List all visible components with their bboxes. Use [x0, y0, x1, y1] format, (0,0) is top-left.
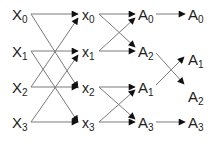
node-label: x	[82, 115, 89, 131]
node-label: A	[188, 6, 198, 23]
node-subscript: 0	[89, 14, 95, 25]
node-label: A	[188, 88, 198, 105]
node-X2: X2	[12, 80, 28, 98]
node-subscript: 1	[198, 59, 204, 70]
node-A1b: A1	[188, 52, 204, 70]
node-label: x	[82, 80, 89, 96]
edges-layer	[0, 0, 215, 145]
node-label: x	[82, 7, 89, 23]
node-x1: x1	[82, 45, 95, 62]
node-label: X	[12, 6, 22, 23]
node-subscript: 0	[22, 14, 28, 25]
node-label: X	[12, 79, 22, 96]
node-A3b: A3	[188, 115, 204, 133]
node-A1a: A1	[138, 80, 154, 98]
node-label: A	[138, 79, 148, 96]
node-subscript: 2	[22, 87, 28, 98]
node-subscript: 3	[198, 122, 204, 133]
edge-A1a-to-A1b	[156, 57, 184, 85]
node-label: A	[138, 6, 148, 23]
node-x0: x0	[82, 8, 95, 25]
node-label: A	[188, 51, 198, 68]
node-x2: x2	[82, 81, 95, 98]
node-label: x	[82, 44, 89, 60]
node-subscript: 2	[148, 51, 154, 62]
node-subscript: 1	[148, 87, 154, 98]
node-subscript: 3	[22, 122, 28, 133]
node-label: A	[138, 114, 148, 131]
butterfly-diagram: X0X1X2X3x0x1x2x3A0A2A1A3A0A1A2A3	[0, 0, 215, 145]
node-A0a: A0	[138, 7, 154, 25]
node-A3a: A3	[138, 115, 154, 133]
node-label: X	[12, 114, 22, 131]
edge-A2a-to-A2b	[156, 53, 184, 84]
node-subscript: 0	[198, 14, 204, 25]
node-A2b: A2	[188, 89, 204, 107]
node-subscript: 1	[89, 51, 95, 62]
edge-x0-to-A2a	[99, 14, 135, 47]
edge-x3-to-A1a	[99, 90, 135, 122]
node-label: A	[138, 43, 148, 60]
node-label: A	[188, 114, 198, 131]
node-X1: X1	[12, 44, 28, 62]
node-subscript: 3	[148, 122, 154, 133]
node-X0: X0	[12, 7, 28, 25]
node-subscript: 2	[198, 96, 204, 107]
node-x3: x3	[82, 116, 95, 133]
node-label: X	[12, 43, 22, 60]
edge-x1-to-A0a	[99, 18, 135, 51]
node-subscript: 3	[89, 122, 95, 133]
node-subscript: 0	[148, 14, 154, 25]
node-subscript: 1	[22, 51, 28, 62]
node-A2a: A2	[138, 44, 154, 62]
node-subscript: 2	[89, 87, 95, 98]
edge-x2-to-A3a	[99, 87, 135, 119]
node-A0b: A0	[188, 7, 204, 25]
node-X3: X3	[12, 115, 28, 133]
